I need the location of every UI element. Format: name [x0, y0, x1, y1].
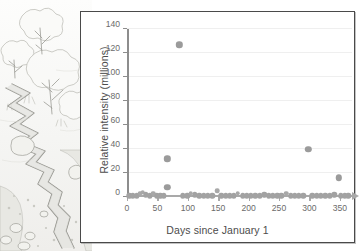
- x-tick-label: 250: [272, 203, 286, 213]
- x-tick-label: 300: [302, 203, 316, 213]
- scatter-point: [164, 184, 170, 190]
- y-tick-label: 20: [110, 163, 120, 173]
- x-tick-label: 200: [241, 203, 255, 213]
- y-tick-mark: [123, 124, 127, 125]
- y-tick-mark: [123, 76, 127, 77]
- y-tick-label: 0: [115, 187, 120, 197]
- scatter-point: [335, 175, 341, 181]
- x-axis-arrow-icon: [352, 192, 359, 200]
- x-tick-label: 100: [181, 203, 195, 213]
- pencil-sketch-svg: [0, 0, 92, 251]
- plot-area: 020406080100120140 050100150200250300350: [127, 29, 352, 197]
- y-tick-label: 100: [106, 67, 120, 77]
- x-axis-label: Days since January 1: [81, 224, 354, 236]
- y-tick-label: 40: [110, 139, 120, 149]
- scatter-point: [305, 146, 311, 152]
- scatter-point: [161, 193, 166, 198]
- x-tick-label: 350: [333, 203, 347, 213]
- y-tick-mark: [123, 52, 127, 53]
- y-tick-label: 120: [106, 43, 120, 53]
- y-tick-mark: [123, 148, 127, 149]
- gridline: [127, 172, 352, 173]
- scatter-point: [176, 41, 182, 47]
- river-landscape-illustration: [0, 0, 92, 251]
- y-tick-mark: [123, 28, 127, 29]
- gridline: [127, 100, 352, 101]
- chart-panel: Relative intensity (millions) 0204060801…: [80, 11, 355, 243]
- scatter-point: [346, 193, 351, 198]
- scatter-point: [164, 155, 170, 161]
- gridline: [127, 148, 352, 149]
- y-tick-mark: [123, 100, 127, 101]
- y-axis-line: [127, 29, 129, 197]
- y-tick-label: 80: [110, 91, 120, 101]
- gridline: [127, 52, 352, 53]
- x-tick-label: 150: [211, 203, 225, 213]
- x-tick-label: 50: [153, 203, 163, 213]
- scatter-point: [301, 193, 306, 198]
- plot-stage: Relative intensity (millions) 0204060801…: [81, 12, 354, 242]
- y-tick-label: 140: [106, 19, 120, 29]
- x-tick-label: 0: [125, 203, 130, 213]
- y-tick-mark: [123, 172, 127, 173]
- gridline: [127, 28, 352, 29]
- gridline: [127, 76, 352, 77]
- gridline: [127, 124, 352, 125]
- scatter-point: [209, 193, 214, 198]
- y-tick-label: 60: [110, 115, 120, 125]
